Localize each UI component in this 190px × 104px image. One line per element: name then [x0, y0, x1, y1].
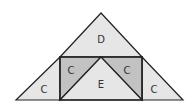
label-d: D	[97, 34, 105, 45]
label-right-outer-c: C	[151, 84, 158, 95]
label-e: E	[98, 79, 104, 90]
region-right-outer-c	[142, 57, 183, 100]
label-right-inner-c: C	[124, 65, 131, 76]
label-left-outer-c: C	[41, 84, 48, 95]
region-left-outer-c	[16, 57, 60, 100]
label-left-inner-c: C	[68, 65, 75, 76]
triangle-diagram: D C C E C C	[0, 0, 190, 104]
